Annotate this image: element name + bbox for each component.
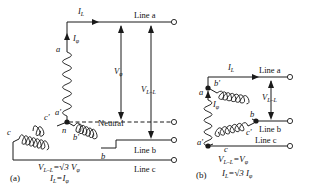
delta-caption: (b) bbox=[196, 170, 207, 180]
wye-vll-arrow-up bbox=[148, 25, 154, 33]
wye-vphase-label: Vφ bbox=[114, 66, 123, 77]
delta-terminal-label-line-b: Line b bbox=[259, 124, 281, 134]
wye-terminal-line-c[interactable] bbox=[171, 157, 176, 162]
wye-terminal-neutral[interactable] bbox=[171, 119, 176, 124]
delta-node-c-prime-label: c' bbox=[246, 127, 252, 137]
delta-winding-b bbox=[217, 91, 249, 104]
delta-node-c-label: c bbox=[224, 144, 228, 154]
delta-terminal-line-a[interactable] bbox=[287, 74, 292, 79]
three-phase-connection-figure: IL Iφ a a' n c' c b' b Vφ VL–L Line a Ne… bbox=[0, 0, 312, 187]
wye-node-a-label: a bbox=[56, 44, 60, 54]
delta-winding-c-lead bbox=[248, 123, 254, 126]
delta-terminal-line-c[interactable] bbox=[287, 143, 292, 148]
delta-winding-c bbox=[215, 123, 248, 137]
delta-winding-b-lead bbox=[210, 89, 217, 93]
wye-node-b-prime-label: b' bbox=[73, 132, 79, 142]
delta-node-b-label: b bbox=[250, 109, 254, 119]
delta-equation-current: IL=√3 Iφ bbox=[221, 168, 253, 179]
delta-vertex-top bbox=[205, 85, 210, 90]
wye-equation-voltage: VL–L=√3 Vφ bbox=[38, 162, 80, 173]
wye-diagram: IL Iφ a a' n c' c b' b Vφ VL–L Line a Ne… bbox=[7, 6, 177, 184]
delta-vll-label: VL–L bbox=[262, 92, 278, 103]
wye-phase-current-arrow bbox=[64, 33, 70, 40]
wye-line-current-arrow bbox=[92, 19, 99, 25]
delta-vll-arrow-down bbox=[268, 112, 274, 120]
delta-terminal-label-line-c: Line c bbox=[255, 135, 277, 145]
wye-caption: (a) bbox=[10, 173, 20, 183]
wye-vll-arrow-down bbox=[148, 131, 154, 139]
delta-node-a-prime-label: a' bbox=[197, 137, 203, 147]
wye-terminal-line-a[interactable] bbox=[171, 19, 176, 24]
wye-node-n-label: n bbox=[62, 125, 66, 135]
delta-winding-a bbox=[204, 100, 212, 146]
wye-terminal-label-line-c: Line c bbox=[134, 164, 156, 174]
wye-line-current-label: IL bbox=[77, 6, 85, 17]
delta-phase-current-label: Iφ bbox=[212, 99, 220, 110]
wye-node-a-prime-label: a' bbox=[55, 107, 61, 117]
delta-node-a-label: a bbox=[199, 87, 203, 97]
wye-winding-a bbox=[63, 52, 72, 116]
wye-vll-label: VL–L bbox=[141, 84, 157, 95]
delta-node-b-prime-label: b' bbox=[214, 78, 220, 88]
wye-phase-current-label: Iφ bbox=[72, 33, 80, 44]
wye-terminal-label-line-a: Line a bbox=[134, 10, 156, 20]
wye-terminal-label-neutral: Neutral bbox=[98, 118, 124, 128]
wye-terminal-line-b[interactable] bbox=[171, 137, 176, 142]
wye-equation-current: IL=Iφ bbox=[49, 173, 69, 184]
wye-vphase-arrow-up bbox=[118, 25, 124, 33]
delta-diagram: IL Iφ a a' b' b c' c VL–L Line a Line b … bbox=[196, 62, 293, 180]
wye-terminal-label-line-b: Line b bbox=[134, 145, 156, 155]
wye-node-b-label: b bbox=[101, 151, 105, 161]
wye-node-c-prime-label: c' bbox=[44, 112, 50, 122]
wye-node-c-label: c bbox=[7, 127, 11, 137]
delta-vll-arrow-up bbox=[268, 80, 274, 88]
delta-terminal-label-line-a: Line a bbox=[259, 65, 281, 75]
wye-winding-c-out bbox=[13, 139, 19, 142]
delta-line-current-arrow bbox=[252, 74, 259, 80]
delta-line-current-label: IL bbox=[227, 62, 235, 73]
delta-equation-voltage: VL–L=Vφ bbox=[218, 154, 249, 165]
wye-winding-c bbox=[19, 125, 49, 150]
delta-terminal-line-b[interactable] bbox=[287, 118, 292, 123]
